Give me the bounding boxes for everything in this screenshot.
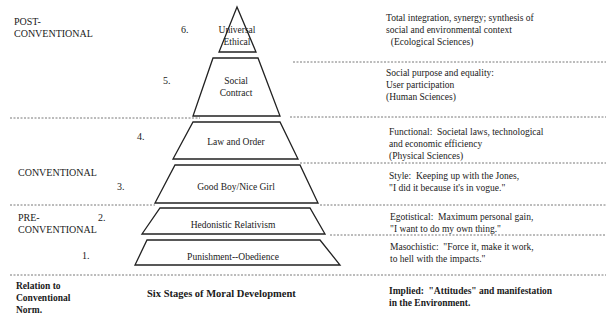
stage-3-name: Good Boy/Nice Girl (176, 181, 296, 193)
stage-1-name: Punishment--Obedience (163, 251, 303, 263)
level-conventional: CONVENTIONAL (18, 167, 97, 179)
stage-1-description: Masochistic: "Force it, make it work, to… (390, 241, 534, 265)
level-label: CONVENTIONAL (14, 28, 93, 40)
desc-line: (Human Sciences) (386, 91, 494, 103)
desc-line: Social purpose and equality: (386, 67, 494, 79)
stage-6-description: Total integration, synergy; synthesis of… (386, 12, 534, 48)
footer-line: Implied: "Attitudes" and manifestation (389, 285, 552, 297)
stage-3-number: 3. (117, 181, 125, 192)
stage-name-line: Contract (206, 87, 266, 99)
desc-line: "I did it because it's in vogue." (389, 182, 519, 194)
stage-2-number: 2. (98, 212, 106, 223)
footer-line: Relation to (16, 280, 70, 292)
footer-line: Norm. (16, 304, 70, 316)
desc-line: to hell with the impacts." (390, 253, 534, 265)
desc-line: Masochistic: "Force it, make it work, (390, 241, 534, 253)
desc-line: Total integration, synergy; synthesis of (386, 12, 534, 24)
desc-line: (Physical Sciences) (389, 150, 543, 162)
stage-4-name: Law and Order (186, 136, 286, 148)
stage-5-name: Social Contract (206, 75, 266, 99)
desc-line: "I want to do my own thing." (390, 223, 533, 235)
stage-5-description: Social purpose and equality: User partic… (386, 67, 494, 103)
stage-name-line: Social (206, 75, 266, 87)
stage-2-description: Egotistical: Maximum personal gain, "I w… (390, 211, 533, 235)
footer-left-label: Relation to Conventional Norm. (16, 280, 70, 316)
desc-line: Egotistical: Maximum personal gain, (390, 211, 533, 223)
desc-line: Style: Keeping up with the Jones, (389, 170, 519, 182)
stage-3-description: Style: Keeping up with the Jones, "I did… (389, 170, 519, 194)
stage-5-number: 5. (163, 75, 171, 86)
stage-4-description: Functional: Societal laws, technological… (389, 126, 543, 162)
stage-6-name: Universal Ethical (207, 24, 267, 48)
desc-line: Functional: Societal laws, technological (389, 126, 543, 138)
stage-name-line: Ethical (207, 36, 267, 48)
stage-2-name: Hedonistic Relativism (163, 219, 303, 231)
stage-4-number: 4. (137, 131, 145, 142)
stage-6-number: 6. (181, 24, 189, 35)
footer-line: in the Environment. (389, 297, 552, 309)
stage-1-number: 1. (82, 250, 90, 261)
desc-line: and economic efficiency (389, 138, 543, 150)
level-label: CONVENTIONAL (18, 224, 97, 236)
footer-line: Conventional (16, 292, 70, 304)
desc-line: social and environmental context (386, 24, 534, 36)
diagram-title: Six Stages of Moral Development (147, 288, 296, 299)
level-label: POST- (14, 16, 93, 28)
stage-name-line: Universal (207, 24, 267, 36)
level-label: PRE- (18, 212, 97, 224)
desc-line: (Ecological Sciences) (386, 36, 534, 48)
footer-right-label: Implied: "Attitudes" and manifestation i… (389, 285, 552, 309)
level-pre-conventional: PRE- CONVENTIONAL (18, 212, 97, 236)
level-post-conventional: POST- CONVENTIONAL (14, 16, 93, 40)
desc-line: User participation (386, 79, 494, 91)
